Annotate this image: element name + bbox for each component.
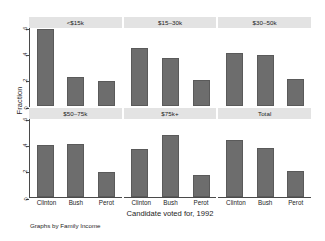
chart-panel: Total <box>218 108 311 198</box>
panel-header-label: $75k+ <box>161 110 178 117</box>
x-tick-label: Bush <box>257 199 274 206</box>
bar <box>162 58 179 106</box>
panel-header-label: $15–30k <box>158 19 182 26</box>
x-tick-label: Clinton <box>37 199 54 206</box>
panel-header: $75k+ <box>124 108 217 119</box>
x-tick-label: Bush <box>162 199 179 206</box>
bar-series <box>219 119 311 197</box>
bar-series <box>125 119 217 197</box>
bar <box>257 148 274 197</box>
x-tick-label: Clinton <box>131 199 148 206</box>
bar <box>98 81 115 106</box>
x-axis-line <box>218 197 311 198</box>
bar <box>226 140 243 197</box>
x-tick-label: Perot <box>287 199 304 206</box>
chart-figure: Fraction <$15k0.2.4.6$15–30k$30–50k$50–7… <box>0 0 325 241</box>
bar <box>67 77 84 106</box>
bar-series <box>125 28 217 106</box>
bar <box>131 48 148 107</box>
bar <box>37 29 54 106</box>
bar <box>37 145 54 197</box>
y-tick-label: .2 <box>23 170 29 175</box>
bar <box>162 135 179 197</box>
x-tick-label: Clinton <box>226 199 243 206</box>
panel-plot-area <box>124 28 217 107</box>
chart-panel: $30–50k <box>218 17 311 107</box>
x-axis-line <box>29 197 122 198</box>
panel-plot-area <box>218 119 311 198</box>
bar <box>193 175 210 197</box>
y-tick-label: .4 <box>23 53 29 58</box>
y-tick-label: .6 <box>23 26 29 31</box>
bar-series <box>30 28 122 106</box>
panel-plot-area: 0.2.4.6 <box>29 119 122 198</box>
x-tick-label-group: ClintonBushPerot <box>218 199 311 209</box>
bar <box>287 79 304 106</box>
bar <box>287 171 304 197</box>
figure-note: Graphs by Family Income <box>30 222 101 229</box>
chart-panel: $50–75k0.2.4.6 <box>29 108 122 198</box>
chart-panel: <$15k0.2.4.6 <box>29 17 122 107</box>
panel-grid: <$15k0.2.4.6$15–30k$30–50k$50–75k0.2.4.6… <box>29 17 311 198</box>
panel-header-label: <$15k <box>67 19 84 26</box>
y-tick-label: .2 <box>23 79 29 84</box>
bar <box>67 144 84 197</box>
y-tick-label: .6 <box>23 117 29 122</box>
x-axis-line <box>124 197 217 198</box>
panel-header: $30–50k <box>218 17 311 28</box>
bar-series <box>219 28 311 106</box>
x-tick-label-group: ClintonBushPerot <box>29 199 122 209</box>
x-axis-title: Candidate voted for, 1992 <box>29 209 311 218</box>
x-tick-label-groups: ClintonBushPerotClintonBushPerotClintonB… <box>29 199 311 209</box>
bar <box>98 172 115 197</box>
bar <box>193 80 210 106</box>
panel-header-label: $30–50k <box>253 19 277 26</box>
bar <box>131 149 148 197</box>
chart-panel: $75k+ <box>124 108 217 198</box>
x-tick-label: Bush <box>67 199 84 206</box>
panel-plot-area: 0.2.4.6 <box>29 28 122 107</box>
chart-panel: $15–30k <box>124 17 217 107</box>
panel-header-label: Total <box>258 110 271 117</box>
panel-header: <$15k <box>29 17 122 28</box>
panel-plot-area <box>124 119 217 198</box>
x-tick-label: Perot <box>98 199 115 206</box>
y-tick-label: .4 <box>23 144 29 149</box>
x-tick-label: Perot <box>193 199 210 206</box>
panel-header: Total <box>218 108 311 119</box>
panel-plot-area <box>218 28 311 107</box>
x-tick-label-group: ClintonBushPerot <box>124 199 217 209</box>
y-axis-title-label: Fraction <box>16 86 25 114</box>
bar <box>226 53 243 106</box>
bar-series <box>30 119 122 197</box>
panel-header: $15–30k <box>124 17 217 28</box>
bar <box>257 55 274 106</box>
panel-header: $50–75k <box>29 108 122 119</box>
panel-header-label: $50–75k <box>63 110 87 117</box>
